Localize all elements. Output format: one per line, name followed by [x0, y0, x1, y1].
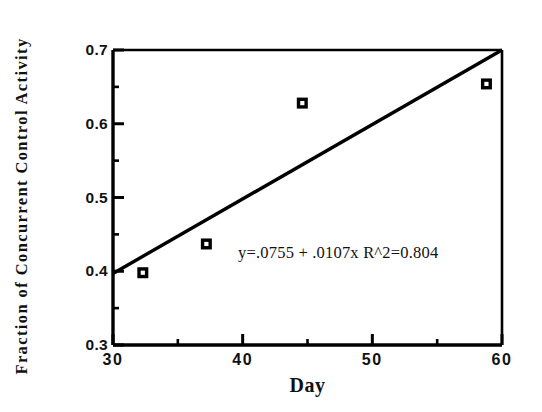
regression-equation-annotation: y=.0755 + .0107x R^2=0.804: [238, 243, 438, 263]
marker-inner-square: [204, 242, 208, 246]
regression-line: [113, 50, 502, 273]
data-point-marker-2: [201, 238, 212, 249]
tick-marks: [113, 50, 502, 345]
marker-inner-square: [141, 271, 145, 275]
chart-figure: Fraction of Concurrent Control Activity …: [0, 0, 542, 412]
data-point-marker-3: [297, 98, 308, 109]
regression-fit-line: [113, 50, 502, 273]
axis-frame: [113, 50, 502, 345]
data-point-marker-1: [137, 267, 148, 278]
x-axis-title: Day: [113, 374, 502, 397]
marker-inner-square: [300, 101, 304, 105]
plot-area: [0, 0, 542, 412]
data-point-marker-4: [481, 78, 492, 89]
marker-inner-square: [484, 82, 488, 86]
